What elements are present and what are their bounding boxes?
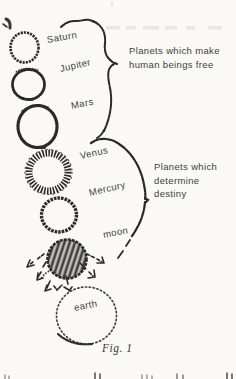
stray-ink-mark <box>3 19 10 28</box>
free-group-line2: human beings free <box>129 58 220 72</box>
free-group-annotation: Planets which make human beings free <box>129 44 220 72</box>
destiny-group-line2: determine <box>154 174 217 188</box>
book-figure-page: Saturn Jupiter Mars Venus Mercury moon e… <box>0 0 236 379</box>
paper-showthrough-smudges <box>106 1 222 30</box>
destiny-group-line1: Planets which <box>154 160 217 174</box>
cropped-text-remnant <box>5 373 232 379</box>
figure-caption: Fig. 1 <box>102 342 132 354</box>
mercury-circle <box>42 198 77 232</box>
jupiter-circle <box>13 68 45 100</box>
moon-circle <box>41 240 87 280</box>
mars-circle <box>18 106 57 149</box>
destiny-group-annotation: Planets which determine destiny <box>154 160 217 201</box>
earth-circle <box>57 287 117 344</box>
saturn-circle <box>11 33 39 63</box>
venus-circle <box>25 150 72 195</box>
destiny-group-line3: destiny <box>154 187 217 201</box>
free-group-line1: Planets which make <box>129 44 220 58</box>
